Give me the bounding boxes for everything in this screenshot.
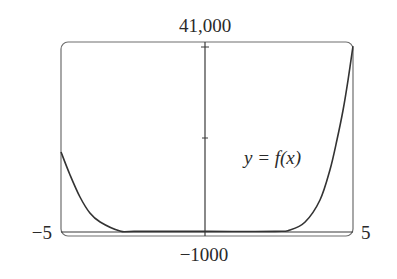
y-max-label: 41,000 bbox=[179, 15, 231, 36]
x-min-label: −5 bbox=[32, 222, 52, 243]
function-curve bbox=[61, 46, 353, 232]
curve-label: y = f(x) bbox=[242, 147, 301, 169]
x-max-label: 5 bbox=[361, 222, 371, 243]
function-plot: 41,000 −1000 −5 5 y = f(x) bbox=[0, 0, 397, 279]
y-min-label: −1000 bbox=[180, 244, 229, 265]
viewing-window-frame bbox=[61, 42, 353, 236]
